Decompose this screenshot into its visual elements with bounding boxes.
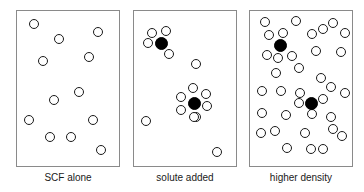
solvent-molecule [176,105,186,115]
solvent-molecule [307,29,317,39]
solvent-molecule [316,73,326,83]
solvent-molecule [49,95,59,105]
solvent-molecule [212,147,222,157]
solvent-molecule [295,88,305,98]
solvent-molecule [318,94,328,104]
solvent-molecule [176,92,186,102]
solvent-molecule [54,34,64,44]
solvent-molecule [188,83,198,93]
solvent-molecule [29,19,39,29]
solvent-molecule [256,128,266,138]
solvent-molecule [307,109,317,119]
solvent-molecule [189,112,199,122]
solvent-molecule [88,115,98,125]
solvent-molecule [311,46,321,56]
solvent-molecule [143,38,153,48]
panel-caption-2: higher density [249,172,353,184]
solvent-molecule [38,56,48,66]
solute-molecule [274,39,287,52]
solvent-molecule [164,49,174,59]
solvent-molecule [24,115,34,125]
solvent-molecule [326,82,336,92]
solvent-molecule [318,144,328,154]
solvent-molecule [287,51,297,61]
solvent-molecule [84,52,94,62]
panel-scf-alone [16,10,120,167]
solvent-molecule [66,132,76,142]
solvent-molecule [291,16,301,26]
solvent-molecule [276,86,286,96]
solvent-molecule [340,88,350,98]
solvent-molecule [264,30,274,40]
scf-clustering-figure: SCF alonesolute addedhigher density [0,0,364,192]
solvent-molecule [336,47,346,57]
solvent-molecule [93,27,103,37]
solvent-molecule [300,128,310,138]
solvent-molecule [328,124,338,134]
solvent-molecule [257,86,267,96]
solvent-molecule [271,68,281,78]
solvent-molecule [278,28,288,38]
solute-molecule [155,37,168,50]
solvent-molecule [294,98,304,108]
solvent-molecule [147,28,157,38]
solvent-molecule [282,143,292,153]
solvent-molecule [260,17,270,27]
solvent-molecule [262,50,272,60]
solvent-molecule [326,112,336,122]
solvent-molecule [74,87,84,97]
solvent-molecule [257,108,267,118]
solute-molecule [188,97,201,110]
solvent-molecule [337,131,347,141]
solvent-molecule [270,126,280,136]
solvent-molecule [273,53,283,63]
solvent-molecule [191,59,201,69]
solvent-molecule [328,18,338,28]
solvent-molecule [161,26,171,36]
panel-caption-1: solute added [133,172,237,184]
solvent-molecule [202,101,212,111]
solvent-molecule [141,116,151,126]
solvent-molecule [45,132,55,142]
solvent-molecule [294,63,304,73]
solvent-molecule [340,28,350,38]
solute-molecule [305,97,318,110]
solvent-molecule [318,24,328,34]
solvent-molecule [306,144,316,154]
solvent-molecule [201,89,211,99]
panel-caption-0: SCF alone [16,172,120,184]
solvent-molecule [281,110,291,120]
solvent-molecule [96,145,106,155]
